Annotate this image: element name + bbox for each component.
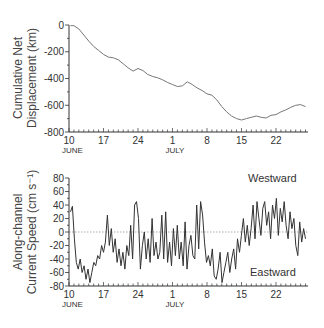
x-tick-label: 17 xyxy=(98,289,110,300)
x-tick-label: 10 xyxy=(63,289,75,300)
y-tick-label: -20 xyxy=(50,240,65,251)
y-tick-label: 0 xyxy=(58,227,64,238)
bottom-chart: Along-channel Current Speed (cm s⁻¹) 806… xyxy=(11,170,308,309)
figure: Cumulative Net Displacement (km) 0-200-4… xyxy=(0,0,324,328)
y-tick-label: 80 xyxy=(53,173,65,184)
y-tick-label: 60 xyxy=(53,186,65,197)
y-tick-label: -600 xyxy=(44,100,64,111)
bottom-y-axis-title: Along-channel Current Speed (cm s⁻¹) xyxy=(11,170,39,295)
x-tick-label: 22 xyxy=(270,135,282,146)
bottom-y-axis-title-line2: Current Speed (cm s⁻¹) xyxy=(25,170,39,295)
top-chart: Cumulative Net Displacement (km) 0-200-4… xyxy=(11,20,308,156)
y-tick-label: -40 xyxy=(50,254,65,265)
x-tick-label: 22 xyxy=(270,289,282,300)
bottom-y-axis-title-line1: Along-channel xyxy=(11,194,25,271)
bottom-axes: 806040200-20-40-60-8010JUNE17241JULY8152… xyxy=(50,173,308,310)
x-tick-label: 1 xyxy=(170,135,176,146)
y-tick-label: -60 xyxy=(50,267,65,278)
y-tick-label: 20 xyxy=(53,213,65,224)
top-y-axis-title-line1: Cumulative Net xyxy=(11,36,25,119)
x-tick-label: 8 xyxy=(204,289,210,300)
y-tick-label: -800 xyxy=(44,127,64,138)
month-label: JULY xyxy=(165,146,185,155)
x-tick-label: 1 xyxy=(170,289,176,300)
top-y-axis-title-line2: Displacement (km) xyxy=(25,28,39,128)
x-tick-label: 10 xyxy=(63,135,75,146)
y-tick-label: 40 xyxy=(53,200,65,211)
x-tick-label: 24 xyxy=(132,289,144,300)
y-tick-label: 0 xyxy=(58,20,64,31)
y-tick-label: -200 xyxy=(44,46,64,57)
y-tick-label: -400 xyxy=(44,73,64,84)
eastward-label: Eastward xyxy=(250,266,296,278)
top-axes: 0-200-400-600-80010JUNE17241JULY81522 xyxy=(44,20,308,156)
x-tick-label: 17 xyxy=(98,135,110,146)
x-tick-label: 8 xyxy=(204,135,210,146)
x-tick-label: 15 xyxy=(236,289,248,300)
y-tick-label: -80 xyxy=(50,281,65,292)
x-tick-label: 15 xyxy=(236,135,248,146)
top-data-line xyxy=(71,26,306,120)
month-label: JULY xyxy=(165,300,185,309)
westward-label: Westward xyxy=(248,172,297,184)
x-tick-label: 24 xyxy=(132,135,144,146)
top-y-axis-title: Cumulative Net Displacement (km) xyxy=(11,28,39,128)
month-label: JUNE xyxy=(62,146,83,155)
month-label: JUNE xyxy=(62,300,83,309)
